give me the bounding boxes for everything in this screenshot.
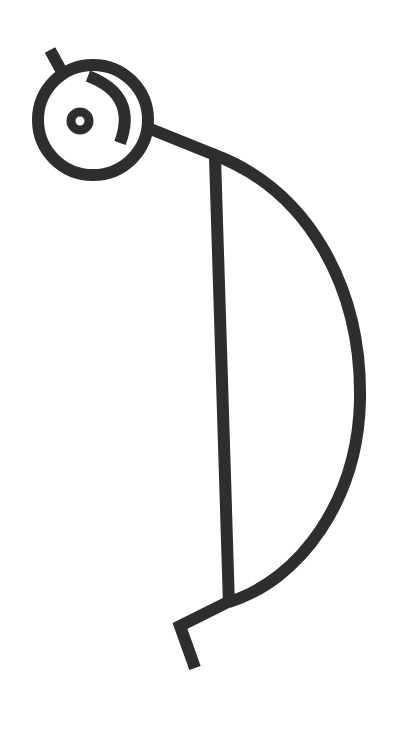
foot-hook — [180, 600, 232, 668]
symbol-drawing — [0, 0, 405, 742]
inner-dot — [71, 112, 89, 130]
vertical-line — [215, 157, 229, 605]
inner-arc — [88, 76, 125, 143]
d-curve — [212, 154, 360, 602]
connector-line — [148, 128, 215, 155]
